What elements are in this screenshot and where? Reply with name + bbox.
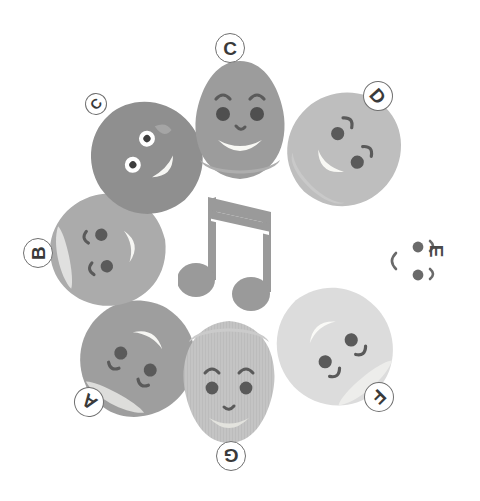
badge-g-label: G bbox=[224, 447, 239, 466]
badge-e[interactable]: E bbox=[425, 240, 447, 262]
badge-c2-label: C bbox=[87, 96, 104, 113]
badge-a-label: A bbox=[78, 390, 100, 413]
badge-e-label: E bbox=[425, 245, 447, 258]
badge-b-label: B bbox=[29, 246, 48, 260]
badge-b[interactable]: B bbox=[23, 238, 53, 268]
badge-d-label: D bbox=[366, 85, 389, 108]
badge-c-label: C bbox=[223, 39, 237, 58]
character-g-body bbox=[165, 314, 293, 446]
badge-g[interactable]: G bbox=[216, 441, 246, 471]
illustration-canvas: A B bbox=[0, 0, 480, 501]
music-note-icon bbox=[178, 182, 288, 317]
badge-c[interactable]: C bbox=[215, 33, 245, 63]
badge-f-label: F bbox=[368, 386, 390, 408]
